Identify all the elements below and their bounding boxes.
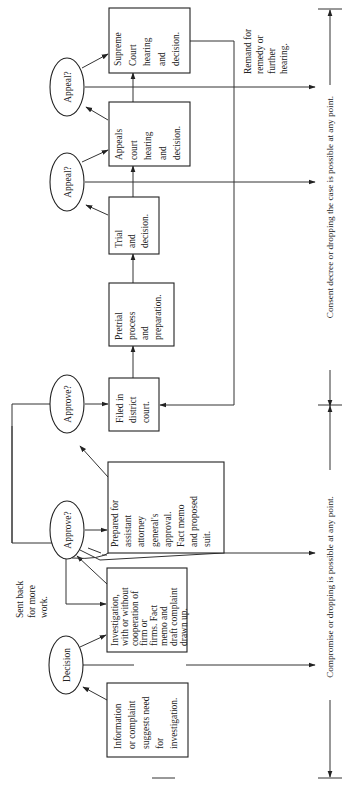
filed-text-line: Filed in (115, 393, 125, 423)
filed-text-line: court. (141, 401, 151, 423)
remand-text-line: further (267, 47, 277, 74)
information-text-line: Information (113, 703, 123, 749)
trial-text-line: decision. (140, 214, 150, 248)
remand-text-line: remedy or (255, 34, 265, 74)
supreme-court-text-line: Court (128, 44, 138, 66)
trial-text-line: Trial (114, 230, 124, 248)
appeals-court-text-line: Appeals (114, 129, 124, 160)
supreme-court-text-line: decision. (171, 32, 181, 66)
investigation-text-line: memo and (159, 606, 169, 646)
prepared-text-line: and proposed (189, 496, 199, 547)
flowchart: Informationor complaintsuggests needfori… (0, 0, 361, 786)
information-text-line: investigation. (169, 698, 179, 749)
supreme-court-text-line: hearing (142, 37, 152, 66)
sent-back-text-line: Sent back (15, 581, 25, 618)
supreme-court-text-line: Supreme (113, 32, 123, 66)
filed-text-line: district (128, 396, 138, 423)
information-text-line: for (155, 737, 165, 749)
remand-text-line: Remand for (243, 28, 253, 74)
investigation-text-line: draft complaint (169, 587, 179, 646)
investigation-text-line: drawn up. (179, 608, 189, 646)
pretrial-text-line: and (140, 326, 150, 340)
prepared-text-line: Fact memo (176, 504, 186, 547)
appeals-court-text-line: hearing (143, 131, 153, 160)
prepared-text-line: suit. (202, 531, 212, 547)
investigation-text-line: Investigation, (110, 594, 120, 646)
investigation-text-line: firms. Fact (149, 604, 159, 646)
prepared-text-line: approval. (163, 511, 173, 547)
pretrial-text-line: Pretrial (114, 312, 124, 340)
appeals-court-text-line: court (129, 140, 139, 160)
prepared-text-line: general's (150, 513, 160, 547)
remand-text-line: hearing. (279, 43, 289, 74)
investigation-text-line: cooperation of (130, 590, 140, 646)
appeals-court-text-line: decision. (172, 126, 182, 160)
pretrial-text-line: preparation. (153, 294, 163, 340)
trial-text-line: and (127, 234, 137, 248)
decision-text: Decision (62, 648, 72, 682)
investigation-text-line: with or without (120, 587, 130, 646)
appeal-2-text: Appeal? (63, 71, 73, 103)
supreme-court-text-line: and (157, 52, 167, 66)
appeals-court-text-line: and (158, 146, 168, 160)
approve-1-text: Approve? (63, 511, 73, 548)
prepared-text-line: attorney (136, 516, 146, 547)
investigation-text-line: firm or (139, 619, 149, 646)
sent-back-text-line: work. (39, 596, 49, 618)
consent-band-label: Consent decree or dropping the case is p… (325, 96, 335, 318)
sent-back-text-line: for more (27, 585, 37, 618)
information-text-line: or complaint (127, 700, 137, 749)
prepared-text-line: Prepared for (110, 499, 120, 547)
approve-2-text: Approve? (63, 385, 73, 422)
pretrial-text-line: process (127, 311, 137, 340)
information-text-line: suggests need (141, 696, 151, 749)
compromise-band-label: Compromise or dropping is possible at an… (325, 496, 335, 678)
appeal-1-text: Appeal? (63, 166, 73, 198)
prepared-text-line: assistant (123, 514, 133, 547)
